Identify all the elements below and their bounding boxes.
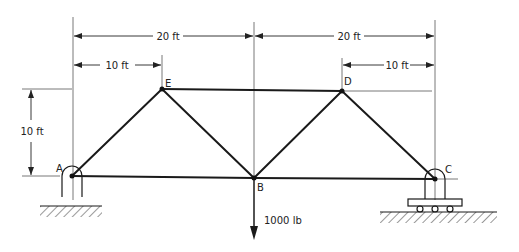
roller-support-C — [380, 169, 497, 223]
joints — [70, 87, 438, 182]
node-label-A: A — [56, 163, 63, 174]
dim-offset-right: 10 ft — [385, 60, 408, 71]
dim-offset-left: 10 ft — [105, 60, 128, 71]
dim-height: 10 ft — [20, 126, 43, 137]
dim-span-right: 20 ft — [337, 31, 360, 42]
pin-support-A — [40, 166, 102, 217]
member-BD — [254, 91, 342, 178]
member-EB — [162, 89, 254, 178]
node-label-D: D — [344, 76, 352, 87]
member-BC — [254, 178, 435, 179]
node-label-B: B — [257, 182, 264, 193]
member-ED — [162, 89, 342, 91]
truss-diagram: 20 ft 20 ft 10 ft 10 ft 10 ft A B — [0, 0, 519, 252]
load-label: 1000 lb — [264, 215, 302, 226]
dim-span-left: 20 ft — [156, 31, 179, 42]
extension-lines — [22, 17, 458, 200]
dimension-lines — [31, 36, 434, 175]
node-label-E: E — [165, 78, 171, 89]
member-AE — [72, 89, 162, 176]
truss-members — [72, 89, 435, 179]
member-AB — [72, 176, 254, 178]
member-DC — [342, 91, 435, 179]
node-label-C: C — [445, 164, 452, 175]
